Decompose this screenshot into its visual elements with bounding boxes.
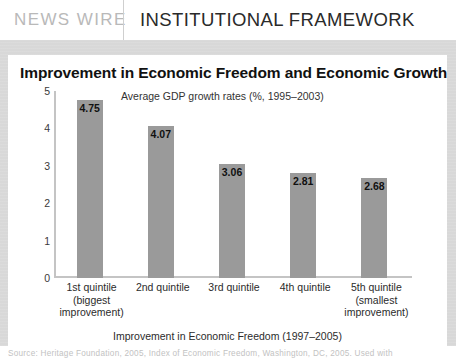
bar-value-label: 3.06 bbox=[222, 166, 242, 178]
x-axis-category-labels: 1st quintile (biggest improvement)2nd qu… bbox=[56, 281, 412, 331]
y-axis-tick-label: 4 bbox=[34, 122, 50, 134]
y-axis-tick-label: 2 bbox=[34, 197, 50, 209]
y-axis-tick-label: 3 bbox=[34, 160, 50, 172]
bar: 3.06 bbox=[219, 164, 245, 278]
bars-layer: 4.754.073.062.812.68 bbox=[56, 91, 412, 278]
bar-value-label: 2.81 bbox=[293, 175, 313, 187]
bar: 4.75 bbox=[77, 100, 103, 278]
bar-value-label: 2.68 bbox=[364, 180, 384, 192]
x-axis-category-label: 5th quintile (smallest improvement) bbox=[329, 281, 424, 319]
bar-value-label: 4.07 bbox=[151, 128, 171, 140]
bar: 4.07 bbox=[148, 126, 174, 278]
section-title: INSTITUTIONAL FRAMEWORK bbox=[124, 9, 415, 31]
bar-value-label: 4.75 bbox=[79, 102, 99, 114]
page-header: NEWS WIRE INSTITUTIONAL FRAMEWORK bbox=[0, 0, 456, 40]
brand-news-wire: NEWS WIRE bbox=[0, 10, 123, 30]
y-axis-tick-label: 1 bbox=[34, 235, 50, 247]
x-axis-title: Improvement in Economic Freedom (1997–20… bbox=[8, 330, 447, 342]
source-note: Source: Heritage Foundation, 2005, Index… bbox=[8, 349, 456, 358]
bar: 2.81 bbox=[290, 173, 316, 278]
y-axis-ticks: 012345 bbox=[28, 91, 50, 278]
y-axis-tick-label: 5 bbox=[34, 85, 50, 97]
bar: 2.68 bbox=[361, 178, 387, 278]
figure-panel: Improvement in Economic Freedom and Econ… bbox=[8, 55, 447, 346]
